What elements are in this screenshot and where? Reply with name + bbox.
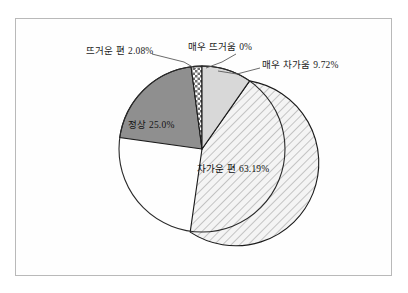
pie-label-hot-side: 뜨거운 편 2.08%: [86, 46, 154, 57]
figure-canvas: 뜨거운 편 2.08% 매우 뜨거움 0% 매우 차가움 9.72% 정상 25…: [0, 0, 408, 293]
pie-label-very-cold: 매우 차가움 9.72%: [262, 60, 339, 71]
pie-label-cold-side: 차가운 편 63.19%: [197, 164, 269, 175]
pie-label-normal: 정상 25.0%: [128, 120, 175, 131]
leader-line-very-hot: [206, 54, 236, 68]
pie-label-very-hot: 매우 뜨거움 0%: [188, 42, 252, 53]
pie-slice-normal[interactable]: [120, 67, 202, 149]
